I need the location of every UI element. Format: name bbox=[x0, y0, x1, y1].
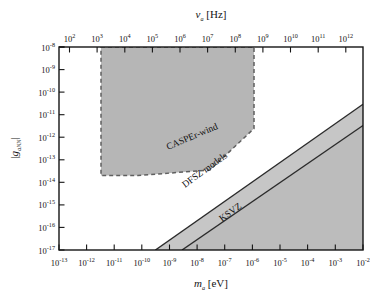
top-x-axis-title: va [Hz] bbox=[196, 8, 227, 22]
top-tick-exp-3: 5 bbox=[155, 32, 158, 39]
top-tick-exp-4: 6 bbox=[183, 32, 186, 39]
y-tick-exp-3: -11 bbox=[47, 108, 55, 115]
y-tick-exp-8: -16 bbox=[47, 221, 55, 228]
x-tick-exp-11: -2 bbox=[365, 256, 370, 263]
top-tick-exp-0: 2 bbox=[72, 32, 75, 39]
x-tick-exp-6: -7 bbox=[226, 256, 231, 263]
y-tick-exp-9: -17 bbox=[47, 244, 55, 251]
top-tick-exp-5: 7 bbox=[210, 32, 213, 39]
top-tick-exp-8: 10 bbox=[292, 32, 298, 39]
x-tick-exp-4: -9 bbox=[171, 256, 176, 263]
x-tick-exp-5: -8 bbox=[199, 256, 204, 263]
y-tick-exp-5: -13 bbox=[47, 153, 55, 160]
x-tick-exp-7: -6 bbox=[254, 256, 259, 263]
top-x-axis-unit: [Hz] bbox=[206, 8, 226, 20]
axion-coupling-exclusion-plot: 10-13 10-12 10-11 10-10 10-9 10-8 10-7 1… bbox=[0, 0, 388, 298]
x-axis-unit: [eV] bbox=[208, 277, 228, 289]
top-tick-exp-1: 3 bbox=[100, 32, 103, 39]
y-tick-exp-0: -8 bbox=[50, 41, 55, 48]
y-tick-exp-1: -9 bbox=[50, 63, 55, 70]
top-tick-exp-9: 11 bbox=[319, 32, 325, 39]
x-tick-exp-3: -10 bbox=[142, 256, 150, 263]
x-tick-exp-9: -4 bbox=[309, 256, 314, 263]
top-tick-exp-7: 9 bbox=[266, 32, 269, 39]
y-tick-exp-7: -15 bbox=[47, 198, 55, 205]
x-axis-symbol: m bbox=[194, 277, 202, 289]
x-tick-exp-8: -5 bbox=[282, 256, 287, 263]
x-axis-title: ma [eV] bbox=[194, 277, 228, 291]
x-tick-exp-1: -12 bbox=[87, 256, 95, 263]
y-tick-exp-4: -12 bbox=[47, 131, 55, 138]
plot-svg: 10-13 10-12 10-11 10-10 10-9 10-8 10-7 1… bbox=[0, 0, 388, 298]
x-tick-exp-10: -3 bbox=[337, 256, 342, 263]
y-tick-exp-6: -14 bbox=[47, 176, 55, 183]
top-tick-exp-10: 12 bbox=[347, 32, 353, 39]
top-tick-exp-2: 4 bbox=[128, 32, 131, 39]
x-tick-exp-0: -13 bbox=[59, 256, 67, 263]
top-tick-exp-6: 8 bbox=[238, 32, 241, 39]
y-tick-exp-2: -10 bbox=[47, 86, 55, 93]
x-tick-exp-2: -11 bbox=[114, 256, 122, 263]
